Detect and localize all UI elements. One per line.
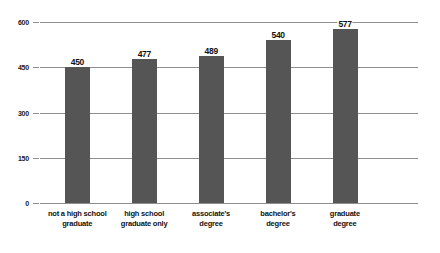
bar-4[interactable]	[333, 29, 358, 203]
bar-group-4[interactable]: 577	[333, 22, 358, 203]
y-tick-label-450: 450	[18, 64, 29, 71]
x-axis-label-4: graduate degree	[295, 209, 395, 229]
bar-group-3[interactable]: 540	[266, 22, 291, 203]
bar-3[interactable]	[266, 40, 291, 203]
tick-mark-450	[33, 67, 39, 68]
bar-chart: 600 450 300 150 0 450	[0, 0, 440, 253]
gridline-baseline-0	[40, 203, 418, 204]
tick-mark-150	[33, 158, 39, 159]
tick-mark-600	[33, 22, 39, 23]
bar-2[interactable]	[199, 56, 224, 204]
bar-1[interactable]	[132, 59, 157, 203]
tick-mark-300	[33, 113, 39, 114]
bar-group-1[interactable]: 477	[132, 22, 157, 203]
bars-layer: 450 477 489 540 577	[40, 22, 418, 203]
tick-mark-0	[33, 203, 39, 204]
y-tick-label-0: 0	[25, 200, 29, 207]
bar-value-label-3: 540	[270, 30, 285, 40]
bar-group-0[interactable]: 450	[65, 22, 90, 203]
bar-value-label-1: 477	[137, 49, 152, 59]
bar-value-label-4: 577	[337, 19, 352, 29]
y-tick-label-300: 300	[18, 109, 29, 116]
bar-0[interactable]	[65, 67, 90, 203]
bar-value-label-0: 450	[70, 57, 85, 67]
x-axis-label-4-line-2: degree	[295, 219, 395, 229]
y-tick-label-600: 600	[18, 19, 29, 26]
y-tick-label-150: 150	[18, 154, 29, 161]
plot-area: 600 450 300 150 0 450	[40, 22, 418, 203]
bar-value-label-2: 489	[204, 46, 219, 56]
x-axis-label-4-line-1: graduate	[295, 209, 395, 219]
x-axis-labels: not a high school graduate high school g…	[40, 209, 418, 245]
bar-group-2[interactable]: 489	[199, 22, 224, 203]
